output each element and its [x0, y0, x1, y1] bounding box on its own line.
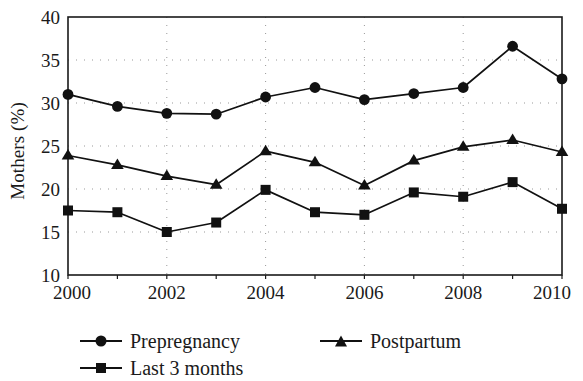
- data-point: [112, 207, 122, 217]
- data-point: [162, 227, 172, 237]
- data-point: [63, 206, 73, 216]
- legend-marker-glyph: [96, 363, 106, 373]
- x-axis-tick-label: 2000: [53, 283, 91, 302]
- data-point: [112, 101, 123, 112]
- data-point: [458, 192, 468, 202]
- plot-area: [0, 0, 583, 381]
- series-line: [68, 182, 562, 232]
- x-axis-tick-labels: 200020022004200620082010: [0, 283, 583, 311]
- legend-item[interactable]: Prepregnancy: [78, 329, 240, 353]
- legend-item-label: Postpartum: [364, 331, 461, 351]
- data-point: [260, 92, 271, 103]
- series-prepregnancy: [63, 41, 568, 120]
- data-point: [557, 74, 568, 85]
- legend-item-label: Prepregnancy: [124, 331, 240, 351]
- data-point: [310, 82, 321, 93]
- legend-item[interactable]: Postpartum: [318, 329, 461, 353]
- series-last-3-months: [63, 177, 567, 237]
- data-point: [211, 218, 221, 228]
- legend-marker-square-icon: [78, 358, 124, 378]
- data-point: [62, 149, 75, 160]
- data-point: [458, 82, 469, 93]
- legend-marker-glyph: [96, 336, 107, 347]
- data-point: [259, 145, 272, 156]
- x-axis-tick-label: 2006: [345, 283, 383, 302]
- x-axis-tick-label: 2008: [444, 283, 482, 302]
- data-point: [408, 88, 419, 99]
- legend-marker-circle-icon: [78, 331, 124, 351]
- line-chart-figure: Mothers (%) 10152025303540 2000200220042…: [0, 0, 583, 381]
- x-axis-tick-label: 2004: [247, 283, 285, 302]
- legend-item[interactable]: Last 3 months: [78, 356, 243, 380]
- legend-marker-glyph: [335, 336, 347, 347]
- legend-marker-triangle-icon: [318, 331, 364, 351]
- data-point: [508, 177, 518, 187]
- data-point: [359, 94, 370, 105]
- chart-legend: PrepregnancyLast 3 monthsPostpartum: [0, 327, 583, 381]
- data-point: [63, 89, 74, 100]
- data-point: [506, 133, 519, 144]
- data-point: [507, 41, 518, 52]
- data-point: [211, 109, 222, 120]
- x-axis-tick-label: 2010: [533, 283, 571, 302]
- x-axis-tick-label: 2002: [148, 283, 186, 302]
- series-postpartum: [62, 133, 569, 189]
- legend-item-label: Last 3 months: [124, 358, 243, 378]
- data-point: [409, 187, 419, 197]
- series-line: [68, 46, 562, 114]
- data-point: [161, 108, 172, 119]
- data-point: [261, 185, 271, 195]
- data-point: [557, 204, 567, 214]
- data-point: [310, 207, 320, 217]
- data-point: [359, 210, 369, 220]
- plot-frame: [68, 17, 562, 275]
